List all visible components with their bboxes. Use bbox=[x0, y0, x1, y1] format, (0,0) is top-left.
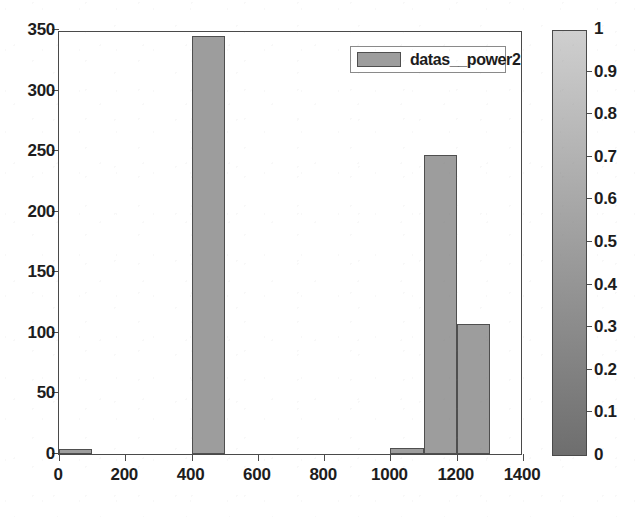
histogram-bar bbox=[390, 448, 423, 454]
colorbar-tick-label: 0.6 bbox=[594, 189, 639, 209]
colorbar-tick-label: 0.4 bbox=[594, 275, 639, 295]
colorbar-tick-mark bbox=[586, 284, 592, 285]
x-tick-mark bbox=[59, 454, 60, 461]
x-tick-mark bbox=[192, 454, 193, 461]
x-tick-mark bbox=[324, 454, 325, 461]
y-tick-label: 250 bbox=[0, 141, 55, 161]
y-tick-label: 50 bbox=[0, 383, 55, 403]
histogram-bar bbox=[192, 36, 225, 454]
colorbar-tick-label: 1 bbox=[594, 19, 639, 39]
colorbar-tick-label: 0.9 bbox=[594, 62, 639, 82]
colorbar-tick-mark bbox=[586, 156, 592, 157]
colorbar-tick-mark bbox=[586, 71, 592, 72]
histogram-bar bbox=[457, 324, 490, 454]
plot-area bbox=[59, 32, 521, 454]
colorbar[interactable] bbox=[552, 30, 587, 456]
colorbar-tick-mark bbox=[586, 369, 592, 370]
colorbar-tick-mark bbox=[586, 411, 592, 412]
y-tick-label: 300 bbox=[0, 81, 55, 101]
legend-label-datas-power2: datas__power2 bbox=[410, 51, 520, 69]
x-tick-mark bbox=[457, 454, 458, 461]
colorbar-tick-mark bbox=[586, 198, 592, 199]
histogram-bar bbox=[59, 449, 92, 454]
plot-axes bbox=[58, 31, 522, 455]
legend[interactable]: datas__power2 bbox=[350, 46, 506, 73]
histogram-bar bbox=[424, 155, 457, 454]
y-tick-label: 150 bbox=[0, 262, 55, 282]
colorbar-tick-label: 0.3 bbox=[594, 317, 639, 337]
colorbar-tick-label: 0.8 bbox=[594, 104, 639, 124]
colorbar-tick-label: 0.7 bbox=[594, 147, 639, 167]
colorbar-tick-mark bbox=[586, 326, 592, 327]
y-tick-label: 100 bbox=[0, 323, 55, 343]
y-tick-label: 350 bbox=[0, 20, 55, 40]
x-tick-mark bbox=[258, 454, 259, 461]
x-tick-mark bbox=[523, 454, 524, 461]
colorbar-tick-label: 0.5 bbox=[594, 232, 639, 252]
colorbar-tick-mark bbox=[586, 241, 592, 242]
x-tick-mark bbox=[125, 454, 126, 461]
y-tick-label: 200 bbox=[0, 202, 55, 222]
colorbar-tick-mark bbox=[586, 113, 592, 114]
x-tick-label: 1400 bbox=[482, 465, 562, 485]
figure-canvas: 050100150200250300350 020040060080010001… bbox=[0, 0, 639, 517]
y-tick-label: 0 bbox=[0, 444, 55, 464]
colorbar-tick-label: 0 bbox=[594, 445, 639, 465]
colorbar-tick-label: 0.2 bbox=[594, 360, 639, 380]
colorbar-tick-label: 0.1 bbox=[594, 402, 639, 422]
x-tick-mark bbox=[390, 454, 391, 461]
legend-swatch-datas-power2 bbox=[357, 52, 401, 67]
